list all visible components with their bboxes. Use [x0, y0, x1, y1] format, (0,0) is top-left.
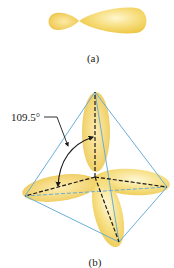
- large-lobe: [79, 8, 147, 34]
- angle-leader-line: [44, 117, 68, 146]
- small-lobe: [49, 13, 80, 30]
- diagram-svg: (a): [0, 0, 174, 268]
- figure: (a): [0, 0, 174, 268]
- panel-b-orbitals: [21, 92, 171, 250]
- angle-label: 109.5°: [11, 111, 40, 123]
- lobe-left: [21, 170, 100, 206]
- panel-b-label: (b): [89, 256, 102, 268]
- panel-a-label: (a): [87, 52, 100, 65]
- panel-a-orbital: [49, 8, 147, 34]
- edge-right-bottom: [119, 187, 167, 242]
